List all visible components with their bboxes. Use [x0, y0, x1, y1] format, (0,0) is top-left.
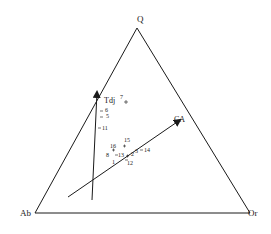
group-label-tdj: Tdj — [104, 96, 115, 105]
ca-arrow — [68, 120, 180, 197]
point-label-8: 8 — [106, 152, 109, 158]
point-label-3: 3 — [135, 148, 138, 154]
point-label-13: 13 — [118, 152, 124, 158]
point-label-15: 15 — [124, 137, 130, 143]
vertex-label-ab: Ab — [20, 208, 31, 218]
point-label-1: 1 — [112, 159, 115, 165]
point-label-14: 14 — [144, 147, 150, 153]
point-label-2: 2 — [131, 151, 134, 157]
point-label-7: 7 — [120, 94, 123, 100]
vertex-label-q: Q — [137, 14, 144, 24]
vertex-label-or: Or — [248, 208, 258, 218]
group-label-ca: CA — [174, 115, 185, 124]
point-label-5: 5 — [106, 113, 109, 119]
diagram-svg: Q Ab Or Tdj CA 7 6 5 11 15 14 16 8 — [0, 0, 271, 234]
point-label-12: 12 — [127, 160, 133, 166]
point-label-11: 11 — [102, 125, 108, 131]
point-label-16: 16 — [110, 143, 116, 149]
ternary-diagram: Q Ab Or Tdj CA 7 6 5 11 15 14 16 8 — [0, 0, 271, 234]
ternary-triangle — [35, 28, 250, 213]
